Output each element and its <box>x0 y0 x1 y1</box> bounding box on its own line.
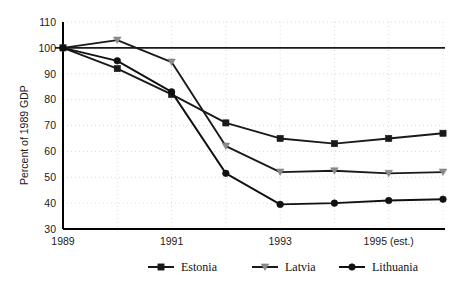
y-tick-label: 50 <box>44 171 56 183</box>
y-axis-title: Percent of 1989 GDP <box>18 85 30 185</box>
y-axis-tick-labels: 30405060708090100110 <box>38 16 56 235</box>
data-point-marker-square <box>114 65 120 71</box>
data-point-marker-square <box>158 264 164 270</box>
legend-item-estonia[interactable]: Estonia <box>148 260 218 274</box>
gdp-line-chart: 30405060708090100110 1989199119931995 (e… <box>0 0 462 282</box>
data-point-marker-square <box>386 135 392 141</box>
legend-item-latvia[interactable]: Latvia <box>252 260 316 274</box>
data-point-marker-square <box>223 120 229 126</box>
data-point-marker-circle <box>349 264 356 271</box>
legend-label: Estonia <box>181 260 218 274</box>
y-tick-label: 60 <box>44 145 56 157</box>
y-tick-label: 80 <box>44 93 56 105</box>
x-tick-label: 1993 <box>268 235 292 247</box>
legend-label: Latvia <box>285 260 316 274</box>
x-tick-label: 1995 (est.) <box>364 235 414 247</box>
data-point-marker-circle <box>440 196 447 203</box>
data-point-marker-square <box>440 130 446 136</box>
y-tick-label: 40 <box>44 197 56 209</box>
data-point-marker-circle <box>331 200 338 207</box>
chart-legend: EstoniaLatviaLithuania <box>148 260 419 274</box>
data-point-marker-circle <box>168 89 175 96</box>
data-point-marker-square <box>277 135 283 141</box>
data-point-marker-square <box>331 141 337 147</box>
chart-figure: 30405060708090100110 1989199119931995 (e… <box>0 0 462 282</box>
y-tick-label: 100 <box>38 42 56 54</box>
legend-item-lithuania[interactable]: Lithuania <box>339 260 419 274</box>
x-tick-label: 1991 <box>160 235 184 247</box>
y-tick-label: 70 <box>44 119 56 131</box>
x-tick-label: 1989 <box>51 235 75 247</box>
data-point-marker-circle <box>60 45 67 52</box>
y-tick-label: 90 <box>44 68 56 80</box>
data-point-marker-circle <box>277 201 284 208</box>
legend-label: Lithuania <box>372 260 419 274</box>
data-point-marker-circle <box>223 170 230 177</box>
y-tick-label: 30 <box>44 223 56 235</box>
gridlines <box>63 22 443 229</box>
data-point-marker-circle <box>114 58 121 65</box>
y-tick-label: 110 <box>39 16 56 28</box>
data-point-marker-circle <box>385 197 392 204</box>
x-axis-tick-labels: 1989199119931995 (est.) <box>51 235 413 247</box>
data-point-marker-triangle <box>222 143 230 150</box>
